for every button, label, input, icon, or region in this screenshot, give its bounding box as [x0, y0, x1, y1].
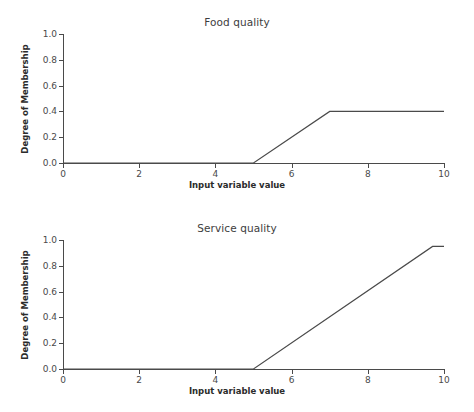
x-tick-label: 8 [365, 169, 371, 179]
chart-title-food: Food quality [0, 16, 474, 28]
chart-title-service: Service quality [0, 222, 474, 234]
series-line-service [63, 246, 444, 369]
x-tick-mark [444, 164, 445, 168]
x-tick-mark [63, 370, 64, 374]
figure-canvas: Food quality Degree of Membership 0.00.2… [0, 0, 474, 412]
x-tick-label: 4 [213, 169, 219, 179]
chart-panel-service: Service quality Degree of Membership 0.0… [0, 206, 474, 412]
series-layer-service [63, 240, 445, 370]
y-axis-title-food: Degree of Membership [18, 34, 32, 164]
x-tick-label: 10 [438, 375, 449, 385]
x-tick-mark [444, 370, 445, 374]
x-tick-mark [368, 370, 369, 374]
x-tick-label: 4 [213, 375, 219, 385]
x-tick-label: 0 [60, 169, 66, 179]
x-tick-mark [139, 370, 140, 374]
x-tick-mark [63, 164, 64, 168]
y-tick-label: 0.6 [43, 287, 57, 297]
y-tick-label: 0.2 [43, 338, 57, 348]
series-line-food [63, 111, 444, 163]
x-tick-label: 8 [365, 375, 371, 385]
plot-area-food: 0.00.20.40.60.81.0 0246810 [63, 34, 444, 164]
x-tick-label: 2 [136, 169, 142, 179]
y-tick-label: 0.8 [43, 55, 57, 65]
y-tick-label: 0.4 [43, 106, 57, 116]
x-tick-label: 6 [289, 169, 295, 179]
y-axis-title-service: Degree of Membership [18, 240, 32, 370]
x-tick-label: 0 [60, 375, 66, 385]
y-tick-label: 0.8 [43, 261, 57, 271]
x-axis-title-service: Input variable value [0, 386, 474, 396]
x-axis-title-food: Input variable value [0, 180, 474, 190]
x-tick-mark [292, 164, 293, 168]
x-tick-mark [292, 370, 293, 374]
y-tick-label: 0.0 [43, 158, 57, 168]
x-tick-mark [368, 164, 369, 168]
y-tick-label: 0.6 [43, 81, 57, 91]
series-layer-food [63, 34, 445, 164]
plot-area-service: 0.00.20.40.60.81.0 0246810 [63, 240, 444, 370]
y-tick-label: 0.2 [43, 132, 57, 142]
x-tick-label: 6 [289, 375, 295, 385]
x-tick-mark [215, 370, 216, 374]
x-tick-label: 10 [438, 169, 449, 179]
y-axis-title-label-food: Degree of Membership [20, 44, 30, 153]
x-tick-label: 2 [136, 375, 142, 385]
y-tick-label: 1.0 [43, 29, 57, 39]
y-axis-title-label-service: Degree of Membership [20, 250, 30, 359]
x-tick-mark [139, 164, 140, 168]
chart-panel-food: Food quality Degree of Membership 0.00.2… [0, 0, 474, 206]
y-tick-label: 0.0 [43, 364, 57, 374]
x-tick-mark [215, 164, 216, 168]
y-tick-label: 1.0 [43, 235, 57, 245]
y-tick-label: 0.4 [43, 312, 57, 322]
